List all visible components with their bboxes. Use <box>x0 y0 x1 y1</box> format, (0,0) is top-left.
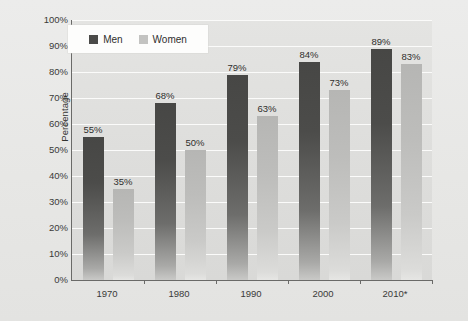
y-tick-label: 70% <box>38 93 68 103</box>
chart-legend: Men Women <box>68 25 208 53</box>
bar-chart-figure: Percentage 0%10%20%30%40%50%60%70%80%90%… <box>0 0 468 321</box>
legend-label-men: Men <box>103 34 122 45</box>
legend-entry-men: Men <box>89 34 122 45</box>
x-tick-label: 2000 <box>312 288 333 299</box>
bar-women-1990: 63% <box>257 116 278 280</box>
bar-value-label: 89% <box>371 36 390 47</box>
bar-value-label: 63% <box>257 103 276 114</box>
bars-layer: 55%35%68%50%79%63%84%73%89%83% <box>72 20 432 280</box>
legend-swatch-women-icon <box>139 35 148 44</box>
bar-value-label: 68% <box>155 90 174 101</box>
x-tick-mark <box>216 280 217 284</box>
bar-value-label: 79% <box>227 62 246 73</box>
legend-label-women: Women <box>153 34 187 45</box>
y-tick-label: 40% <box>38 171 68 181</box>
legend-swatch-men-icon <box>89 35 98 44</box>
x-tick-label: 2010* <box>383 288 408 299</box>
x-axis-tick-labels: 19701980199020002010* <box>71 288 431 304</box>
y-tick-label: 60% <box>38 119 68 129</box>
x-tick-label: 1970 <box>96 288 117 299</box>
y-tick-label: 10% <box>38 249 68 259</box>
plot-area: 55%35%68%50%79%63%84%73%89%83% <box>71 20 432 281</box>
bar-men-1990: 79% <box>227 75 248 280</box>
x-tick-mark <box>144 280 145 284</box>
bar-value-label: 50% <box>185 137 204 148</box>
bar-value-label: 83% <box>401 51 420 62</box>
y-axis-tick-labels: 0%10%20%30%40%50%60%70%80%90%100% <box>38 20 68 280</box>
y-tick-label: 90% <box>38 41 68 51</box>
y-tick-label: 100% <box>38 15 68 25</box>
x-tick-label: 1990 <box>240 288 261 299</box>
bar-value-label: 55% <box>83 124 102 135</box>
bar-men-2010: 89% <box>371 49 392 280</box>
y-tick-label: 50% <box>38 145 68 155</box>
x-tick-mark <box>432 280 433 284</box>
bar-women-2000: 73% <box>329 90 350 280</box>
bar-value-label: 84% <box>299 49 318 60</box>
bar-men-1970: 55% <box>83 137 104 280</box>
legend-entry-women: Women <box>139 34 187 45</box>
bar-men-2000: 84% <box>299 62 320 280</box>
bar-value-label: 73% <box>329 77 348 88</box>
x-tick-mark <box>360 280 361 284</box>
bar-men-1980: 68% <box>155 103 176 280</box>
y-tick-label: 80% <box>38 67 68 77</box>
x-tick-label: 1980 <box>168 288 189 299</box>
bar-women-1980: 50% <box>185 150 206 280</box>
y-tick-label: 20% <box>38 223 68 233</box>
x-tick-mark <box>288 280 289 284</box>
bar-women-1970: 35% <box>113 189 134 280</box>
y-tick-label: 30% <box>38 197 68 207</box>
y-tick-label: 0% <box>38 275 68 285</box>
bar-value-label: 35% <box>113 176 132 187</box>
bar-women-2010: 83% <box>401 64 422 280</box>
